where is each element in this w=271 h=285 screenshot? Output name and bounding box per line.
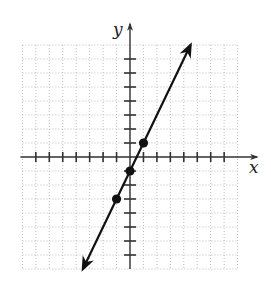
data-point (112, 194, 121, 203)
coordinate-plane: x y (0, 0, 271, 285)
axes (20, 24, 257, 269)
y-axis-label: y (112, 19, 123, 39)
data-point (139, 138, 148, 147)
data-point (125, 166, 134, 175)
x-axis-label: x (249, 157, 259, 177)
